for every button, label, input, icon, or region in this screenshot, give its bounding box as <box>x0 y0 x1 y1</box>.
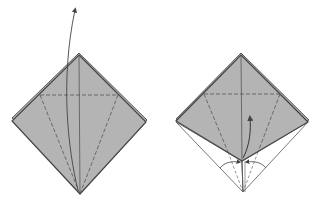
step-2-diagram <box>176 53 309 192</box>
origami-diagram <box>0 0 313 210</box>
step-1-diagram <box>12 10 147 194</box>
